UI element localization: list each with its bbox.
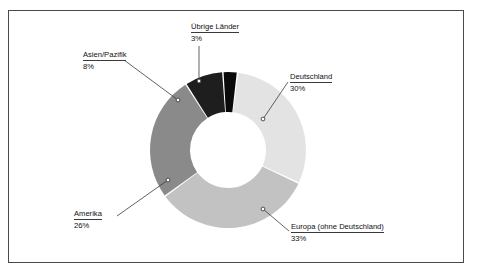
slice-label-title: Amerika (74, 209, 102, 220)
slice-label-asien-pazifik: Asien/Pazifik 8% (83, 50, 126, 71)
slice-label-title: Deutschland (290, 72, 332, 83)
slice-label-value: 8% (83, 62, 126, 71)
slice-label-amerika: Amerika 26% (74, 209, 102, 230)
leader-line-europa (263, 209, 289, 231)
chart-page: Übrige Länder 3% Asien/Pazifik 8% Deutsc… (0, 0, 477, 273)
marker-dot-amerika (166, 178, 170, 182)
slice-label-value: 33% (291, 234, 384, 243)
slice-label-title: Übrige Länder (191, 22, 239, 33)
marker-dot-asien (176, 98, 180, 102)
slice-label-value: 3% (191, 34, 239, 43)
leader-line-asien (124, 60, 178, 100)
slice-label-deutschland: Deutschland 30% (290, 72, 332, 93)
donut-slice-group (150, 72, 306, 228)
leader-line-amerika (117, 180, 168, 216)
slice-label-value: 26% (74, 221, 102, 230)
marker-dot-europa (261, 207, 265, 211)
slice-label-uebrige-laender: Übrige Länder 3% (191, 22, 239, 43)
marker-dot-uebrige (197, 79, 201, 83)
slice-label-title: Europa (ohne Deutschland) (291, 222, 384, 233)
marker-dot-deutschland (261, 117, 265, 121)
slice-label-value: 30% (290, 84, 332, 93)
slice-label-europa: Europa (ohne Deutschland) 33% (291, 222, 384, 243)
slice-label-title: Asien/Pazifik (83, 50, 126, 61)
